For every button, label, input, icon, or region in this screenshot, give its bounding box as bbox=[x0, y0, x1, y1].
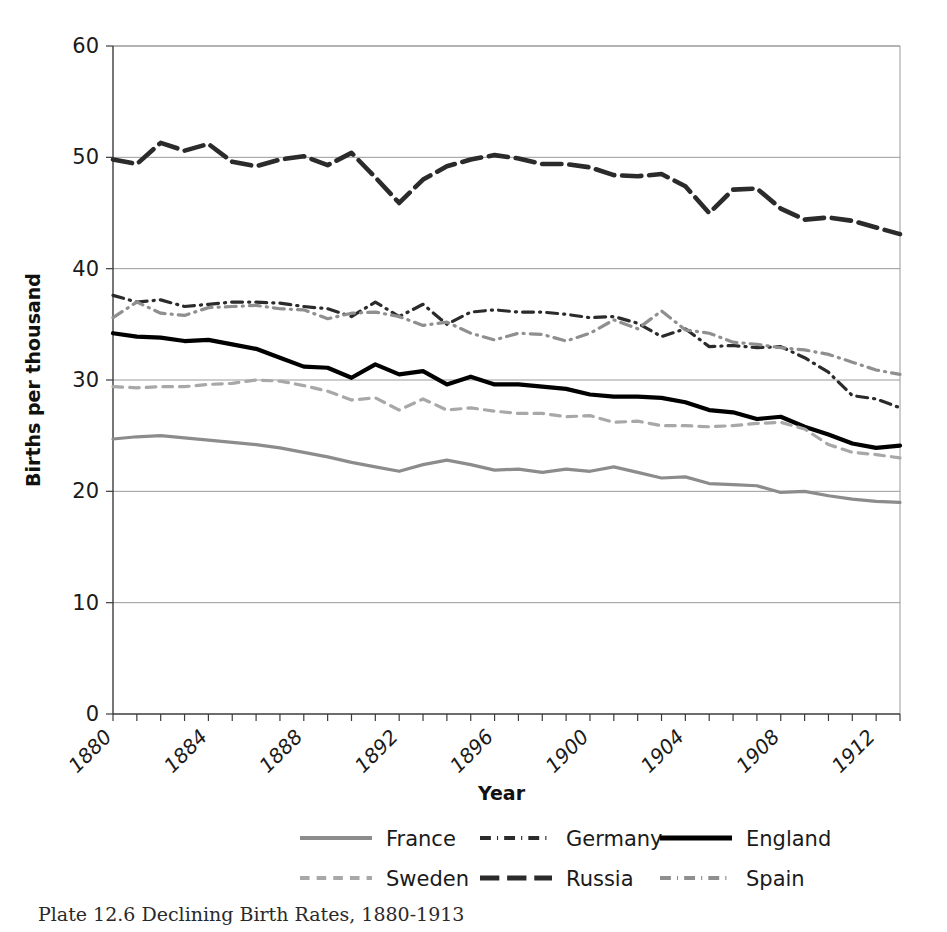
x-axis-title: Year bbox=[477, 782, 526, 804]
series-line-england bbox=[113, 333, 900, 448]
x-tick-label-1900: 1900 bbox=[541, 725, 594, 778]
series-line-france bbox=[113, 436, 900, 503]
x-tick-label-1896: 1896 bbox=[445, 725, 498, 778]
legend-label-sweden: Sweden bbox=[386, 867, 469, 891]
legend-item-spain[interactable]: Spain bbox=[660, 867, 805, 891]
legend-label-russia: Russia bbox=[566, 867, 634, 891]
x-tick-label-1884: 1884 bbox=[159, 725, 212, 778]
x-tick-label-1912: 1912 bbox=[827, 725, 880, 778]
legend-item-france[interactable]: France bbox=[300, 827, 456, 851]
x-tick-label-1892: 1892 bbox=[350, 725, 403, 778]
legend-label-germany: Germany bbox=[566, 827, 663, 851]
legend-label-england: England bbox=[746, 827, 831, 851]
figure-container: 0102030405060188018841888189218961900190… bbox=[0, 0, 947, 932]
legend-item-england[interactable]: England bbox=[660, 827, 831, 851]
series-line-germany bbox=[113, 295, 900, 407]
y-tick-label-10: 10 bbox=[72, 591, 99, 615]
birth-rate-line-chart: 0102030405060188018841888189218961900190… bbox=[0, 0, 947, 932]
y-tick-label-20: 20 bbox=[72, 479, 99, 503]
series-line-spain bbox=[113, 302, 900, 374]
y-tick-label-0: 0 bbox=[86, 702, 99, 726]
y-axis-title: Births per thousand bbox=[22, 273, 44, 487]
x-tick-label-1908: 1908 bbox=[731, 725, 784, 778]
legend-label-france: France bbox=[386, 827, 456, 851]
x-tick-label-1904: 1904 bbox=[636, 725, 689, 778]
y-tick-label-60: 60 bbox=[72, 34, 99, 58]
legend-label-spain: Spain bbox=[746, 867, 805, 891]
y-tick-label-30: 30 bbox=[72, 368, 99, 392]
x-tick-label-1888: 1888 bbox=[254, 725, 307, 778]
legend-item-sweden[interactable]: Sweden bbox=[300, 867, 469, 891]
legend-item-russia[interactable]: Russia bbox=[480, 867, 634, 891]
y-tick-label-50: 50 bbox=[72, 145, 99, 169]
x-tick-label-1880: 1880 bbox=[64, 725, 117, 778]
y-tick-label-40: 40 bbox=[72, 257, 99, 281]
series-line-russia bbox=[113, 143, 900, 234]
legend-item-germany[interactable]: Germany bbox=[480, 827, 663, 851]
figure-caption: Plate 12.6 Declining Birth Rates, 1880-1… bbox=[38, 903, 464, 925]
